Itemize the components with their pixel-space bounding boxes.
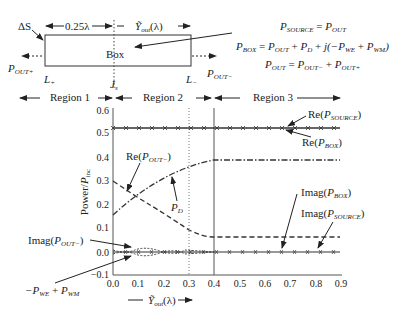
l-minus-label: L− — [185, 73, 197, 87]
svg-text:0.1: 0.1 — [132, 278, 145, 289]
box-label: Box — [106, 48, 125, 60]
annot-imag-psource: Imag(PSOURCE) — [301, 207, 365, 221]
svg-text:0.5: 0.5 — [234, 278, 247, 289]
svg-text:0.4: 0.4 — [97, 152, 110, 163]
svg-text:0.6: 0.6 — [259, 278, 272, 289]
annot-pd: PD — [170, 201, 183, 215]
y-axis-label: Power/Pinc — [78, 169, 92, 215]
region-2-label: Region 2 — [143, 91, 183, 103]
region-1-label: Region 1 — [50, 91, 90, 103]
svg-text:0.2: 0.2 — [158, 278, 171, 289]
svg-text:0.5: 0.5 — [97, 127, 110, 138]
svg-text:0.7: 0.7 — [284, 278, 297, 289]
svg-text:0.1: 0.1 — [97, 222, 110, 233]
dim-label: 0.25λ — [65, 20, 90, 32]
svg-text:Ỹout(λ): Ỹout(λ) — [148, 294, 176, 308]
yout-label: Ỹout(λ) — [135, 20, 163, 34]
annot-re-pbox: Re(PBOX) — [302, 136, 342, 150]
l-plus-label: L+ — [43, 73, 55, 87]
regions: Region 1 Region 2 Region 3 — [20, 91, 340, 103]
svg-text:0.6: 0.6 — [97, 105, 110, 116]
annot-imag-pout-minus: Imag(POUT−) — [28, 234, 84, 248]
annot-re-psource: Re(PSOURCE) — [308, 108, 361, 122]
svg-text:0.4: 0.4 — [208, 278, 221, 289]
x-axis-label: Ỹout(λ) — [128, 294, 192, 308]
svg-text:0.0: 0.0 — [97, 247, 110, 258]
pout-plus-label: POUT+ — [7, 62, 34, 76]
svg-text:0.8: 0.8 — [310, 278, 323, 289]
figure: Box 0.25λ Ỹout(λ) ΔS POUT+ POUT− L+ L− J… — [0, 0, 397, 322]
annot-re-pout-minus: Re(POUT−) — [126, 150, 171, 164]
region-3-label: Region 3 — [253, 91, 294, 103]
box-diagram: Box 0.25λ Ỹout(λ) ΔS POUT+ POUT− L+ L− J… — [7, 20, 233, 92]
x-ticks: 0.0 0.1 0.2 0.3 0.4 0.5 0.6 0.7 0.8 0.9 — [107, 278, 348, 289]
annot-pwe-pwm: −PWE + PWM — [25, 284, 81, 298]
svg-text:0.0: 0.0 — [107, 278, 120, 289]
annotations: Re(PSOURCE) Re(PBOX) Re(POUT−) PD Imag(P… — [25, 108, 365, 298]
pout-minus-label: POUT− — [206, 67, 233, 81]
eq-box: PBOX = POUT + PD + j(−PWE + PWM) — [235, 40, 389, 54]
svg-text:0.2: 0.2 — [97, 199, 110, 210]
svg-text:0.3: 0.3 — [97, 175, 110, 186]
delta-s-label: ΔS — [18, 20, 31, 32]
eq-source: PSOURCE = POUT — [279, 20, 347, 34]
chart: 0.6 0.5 0.4 0.3 0.2 0.1 0.0 −0.1 0.0 0.1… — [25, 105, 365, 308]
equations: PSOURCE = POUT PBOX = POUT + PD + j(−PWE… — [235, 20, 389, 72]
eq-out: POUT = POUT− + POUT+ — [264, 58, 360, 72]
svg-text:0.9: 0.9 — [335, 278, 348, 289]
svg-text:0.3: 0.3 — [183, 278, 196, 289]
y-ticks: 0.6 0.5 0.4 0.3 0.2 0.1 0.0 −0.1 — [91, 105, 109, 280]
annot-imag-pbox: Imag(PBOX) — [301, 186, 352, 200]
js-label: Js — [110, 78, 118, 92]
